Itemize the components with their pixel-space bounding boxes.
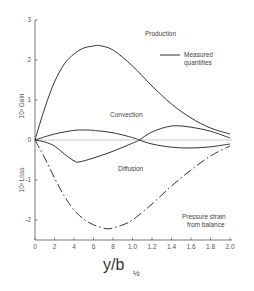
y-tick-label: 3	[27, 16, 31, 23]
chart-canvas: 3210-1-2 024681.01.21.41.61.82.0 10³ Gai…	[0, 0, 254, 291]
x-tick-label: 0	[33, 243, 37, 250]
legend-measured: Measured	[184, 51, 213, 58]
y-label-gain: 10³ Gain	[18, 93, 25, 118]
series-group	[35, 45, 230, 228]
x-tick-label: 1.8	[206, 243, 215, 250]
y-tick-label: 2	[27, 56, 31, 63]
x-tick-label: 1.4	[167, 243, 176, 250]
x-tick-label: 2	[53, 243, 57, 250]
x-tick-label: 1.0	[128, 243, 137, 250]
annotation-pressure-line1: Pressure strain	[182, 213, 226, 220]
x-axis-label: y/b	[103, 256, 124, 273]
series-convection	[35, 130, 230, 148]
annotation-pressure-line2: from balance	[187, 221, 225, 228]
legend-quantities: quantities	[184, 59, 213, 67]
annotation-convection: Convection	[110, 111, 143, 118]
y-label-loss: 10³ Loss	[18, 167, 25, 193]
y-tick-label: -1	[25, 176, 31, 183]
y-tick-label: 0	[27, 136, 31, 143]
x-tick-label: 1.2	[147, 243, 156, 250]
y-tick-label: 1	[27, 96, 31, 103]
x-tick-label: 1.6	[186, 243, 195, 250]
series-diffusion	[35, 126, 230, 162]
y-tick-label: -2	[25, 216, 31, 223]
y-ticks: 3210-1-2	[25, 16, 37, 223]
x-tick-label: 8	[111, 243, 115, 250]
x-tick-label: 6	[92, 243, 96, 250]
annotation-diffusion: Diffusion	[118, 165, 144, 172]
x-tick-label: 4	[72, 243, 76, 250]
x-axis-label-subscript: ½	[133, 269, 140, 278]
x-ticks: 024681.01.21.41.61.82.0	[33, 238, 235, 251]
x-tick-label: 2.0	[225, 243, 234, 250]
annotation-production: Production	[145, 30, 176, 37]
